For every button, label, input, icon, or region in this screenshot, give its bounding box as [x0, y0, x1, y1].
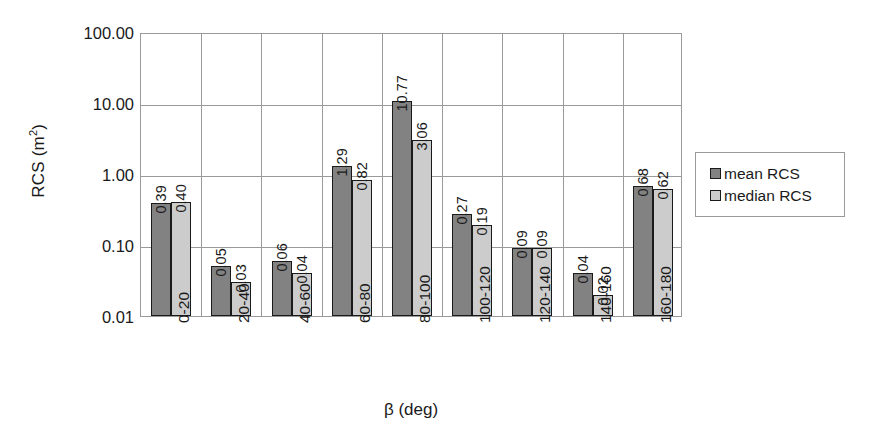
x-axis-tick-label: 0-20 [176, 292, 192, 323]
y-axis-tick-label: 100.00 [56, 25, 134, 42]
chart-legend: mean RCSmedian RCS [695, 152, 845, 217]
bar-mean [633, 186, 653, 316]
y-axis-title-text: RCS (m [29, 136, 48, 198]
bar-value-label: 0.27 [455, 197, 470, 225]
x-axis-tick-label: 140-160 [598, 266, 614, 323]
legend-item: mean RCS [710, 163, 844, 184]
bar-value-label: 0.39 [154, 185, 169, 213]
x-axis-tick-label: 160-180 [658, 266, 674, 323]
bar-value-label: 0.09 [535, 231, 550, 259]
legend-label: median RCS [724, 188, 812, 204]
bar-value-label: 0.04 [294, 256, 309, 284]
x-axis-tick-label: 80-100 [417, 275, 433, 323]
bar-group: 0.090.09 [502, 34, 562, 316]
bar-value-label: 0.04 [575, 256, 590, 284]
bar-value-label: 0.62 [655, 171, 670, 199]
legend-item: median RCS [710, 185, 844, 206]
bar-value-label: 0.40 [174, 185, 189, 213]
x-axis-tick-label: 40-60 [297, 283, 313, 323]
legend-label: mean RCS [724, 166, 800, 182]
bar-group: 0.050.03 [201, 34, 261, 316]
rcs-bar-chart: RCS (m2) 100.0010.001.000.100.01 0.390.4… [0, 0, 880, 436]
bar-mean [452, 214, 472, 316]
y-axis-tick-label: 10.00 [56, 96, 134, 113]
bar-value-label: 0.19 [475, 207, 490, 235]
y-axis-tick-label: 0.01 [56, 309, 134, 326]
y-axis-title-superscript: 2 [27, 130, 39, 136]
bar-value-label: 0.82 [354, 162, 369, 190]
bar-group: 10.773.06 [382, 34, 442, 316]
bar-value-label: 1.29 [334, 148, 349, 176]
x-axis-title: β (deg) [140, 400, 682, 420]
x-axis-tick-labels: 0-2020-4040-6060-8080-100100-120120-1401… [140, 317, 682, 397]
bar-mean [151, 203, 171, 316]
x-axis-tick-label: 60-80 [357, 283, 373, 323]
y-axis-tick-label: 1.00 [56, 167, 134, 184]
x-axis-tick-label: 20-40 [236, 283, 252, 323]
bar-group: 0.390.40 [141, 34, 201, 316]
y-axis-tick-labels: 100.0010.001.000.100.01 [50, 0, 134, 436]
x-axis-tick-label: 100-120 [477, 266, 493, 323]
bar-value-label: 3.06 [414, 122, 429, 150]
y-axis-title: RCS (m2) [27, 101, 49, 221]
bar-value-label: 0.68 [635, 168, 650, 196]
bar-value-label: 0.09 [515, 231, 530, 259]
bar-mean [392, 101, 412, 316]
x-axis-tick-label: 120-140 [537, 266, 553, 323]
legend-swatch-median [710, 190, 721, 201]
bar-group: 1.290.82 [322, 34, 382, 316]
bar-value-label: 0.06 [274, 243, 289, 271]
y-axis-tick-label: 0.10 [56, 238, 134, 255]
bar-value-label: 10.77 [394, 75, 409, 111]
legend-swatch-mean [710, 168, 721, 179]
bar-mean [332, 166, 352, 316]
bar-group: 0.060.04 [261, 34, 321, 316]
y-axis-title-tail: ) [29, 124, 48, 130]
bar-value-label: 0.05 [214, 249, 229, 277]
bar-group: 0.270.19 [442, 34, 502, 316]
